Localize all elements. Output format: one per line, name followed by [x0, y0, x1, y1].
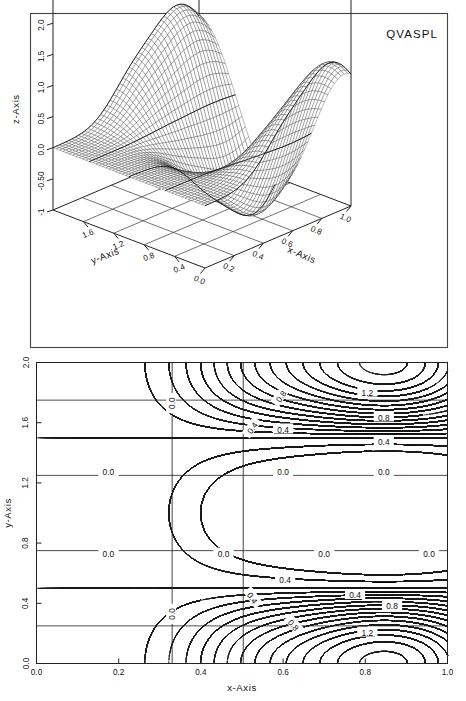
contour-line: [391, 571, 448, 575]
contour-line: [246, 613, 448, 649]
contour-line: [361, 651, 407, 663]
contour-line: [389, 571, 448, 575]
contour-value-label: 0.0: [103, 467, 115, 477]
contour-line: [270, 363, 280, 380]
contour-line: [346, 642, 425, 664]
contour-line: [366, 635, 438, 663]
contour-line: [258, 564, 448, 575]
contour-line: [376, 635, 438, 663]
contour-line: [425, 363, 438, 382]
contour-line: [429, 638, 448, 655]
contour-line: [244, 598, 448, 609]
contour-line: [214, 363, 221, 385]
contour-line: [186, 363, 194, 390]
contour-line: [201, 451, 372, 538]
contour-line: [384, 635, 438, 663]
contour-line: [288, 451, 372, 457]
contour-line: [373, 363, 425, 385]
contour-line: [156, 600, 201, 626]
contour-value-label: 0.0: [167, 608, 177, 620]
contour-line: [286, 363, 332, 395]
contour-line: [320, 635, 435, 663]
contour-line: [201, 363, 206, 383]
contour-line: [193, 444, 448, 467]
contour-line: [410, 627, 448, 642]
contour-line: [201, 451, 372, 523]
contour-line: [356, 642, 426, 664]
contour-line: [188, 555, 447, 581]
contour-line: [226, 390, 269, 410]
contour-line: [320, 363, 329, 377]
contour-line: [239, 451, 372, 467]
contour-line: [373, 642, 425, 664]
contour-line: [169, 444, 448, 561]
contour-line: [174, 444, 448, 489]
y-axis-label: y-Axis: [89, 245, 121, 266]
contour-line: [169, 444, 448, 525]
contour-line: [255, 629, 297, 659]
contour-line: [296, 613, 448, 623]
contour-line: [369, 363, 439, 391]
contour-line: [353, 363, 426, 385]
contour-line: [191, 444, 447, 468]
contour-line: [363, 651, 408, 663]
contour-line: [338, 642, 425, 664]
contour-line: [414, 648, 425, 663]
contour-line: [174, 600, 201, 610]
contour-line: [381, 363, 407, 375]
contour-line: [397, 625, 448, 641]
contour-line: [253, 451, 372, 463]
contour-line: [169, 363, 181, 397]
contour-line: [234, 451, 371, 469]
contour-line: [327, 363, 438, 391]
contour-line: [369, 388, 429, 396]
contour-line: [334, 393, 448, 406]
contour-line: [383, 363, 439, 391]
x-tick-label: 0.8: [309, 224, 323, 237]
contour-line: [227, 363, 237, 386]
figure-root: QVASPL -1-0.500.00.51.01.52.02.50.40.81.…: [0, 0, 466, 701]
contour-line: [410, 632, 448, 655]
figure-title: QVASPL: [386, 28, 438, 40]
contour-line: [327, 635, 439, 663]
contour-line: [436, 642, 447, 655]
contour-line: [394, 642, 426, 663]
contour-line: [360, 651, 407, 663]
contour-line: [169, 444, 448, 558]
contour-line: [201, 451, 372, 517]
contour-line: [186, 598, 447, 659]
contour-line: [201, 451, 372, 548]
contour-line: [272, 403, 422, 417]
contour-line: [183, 595, 447, 626]
contour-line: [201, 363, 249, 412]
contour-line: [397, 609, 448, 615]
contour-line: [244, 560, 448, 575]
contour-line: [286, 363, 299, 381]
contour-line: [397, 605, 448, 610]
contour-line: [177, 444, 447, 483]
contour-line: [320, 635, 435, 663]
contour-line: [320, 635, 439, 663]
contour-line: [403, 388, 428, 395]
contour-line: [386, 625, 448, 642]
contour-line: [255, 616, 416, 663]
contour-line: [170, 595, 447, 650]
contour-line: [301, 410, 423, 418]
contour-line: [198, 595, 448, 615]
contour-line: [186, 363, 199, 396]
contour-line: [239, 387, 422, 418]
contour-line: [361, 363, 408, 375]
contour-line: [389, 625, 448, 642]
contour-line: [258, 613, 448, 638]
contour-line: [416, 649, 426, 663]
contour-line: [190, 444, 448, 469]
contour-line: [258, 629, 298, 653]
contour-line: [231, 605, 448, 632]
contour-line: [394, 388, 429, 396]
contour-line: [285, 451, 372, 457]
contour-line: [255, 616, 432, 663]
contour-line: [338, 363, 350, 377]
contour-line: [216, 636, 227, 653]
contour-line: [215, 636, 227, 657]
contour-line: [395, 388, 428, 396]
